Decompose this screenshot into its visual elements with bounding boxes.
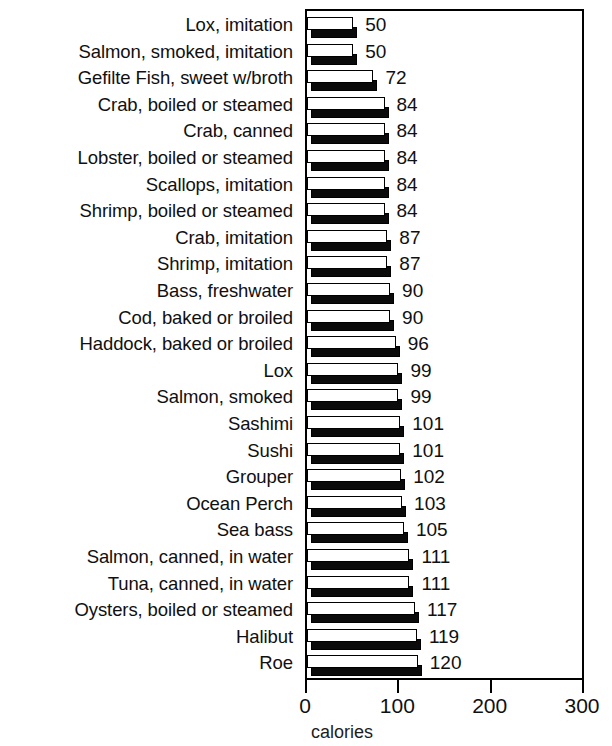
bar: [307, 469, 401, 482]
bar: [307, 97, 385, 110]
bar: [307, 70, 373, 83]
plot-area: 5050728484848484878790909699991011011021…: [305, 9, 584, 680]
bar-group: 111: [307, 576, 586, 603]
bar-group: 84: [307, 123, 586, 150]
category-label: Shrimp, boiled or steamed: [0, 201, 293, 221]
bar-group: 84: [307, 177, 586, 204]
bar: [307, 602, 415, 615]
bar-value-label: 102: [413, 467, 445, 486]
category-label: Salmon, canned, in water: [0, 547, 293, 567]
x-axis-ticks: [305, 680, 584, 694]
bar: [307, 389, 398, 402]
bar-value-label: 99: [410, 387, 431, 406]
bar-group: 50: [307, 17, 586, 44]
bar-value-label: 101: [412, 414, 444, 433]
category-label: Lobster, boiled or steamed: [0, 148, 293, 168]
x-tick-label: 0: [299, 694, 311, 718]
bar-group: 120: [307, 655, 586, 682]
category-label: Sashimi: [0, 414, 293, 434]
category-label: Lox: [0, 361, 293, 381]
bar: [307, 443, 400, 456]
bar-value-label: 50: [365, 15, 386, 34]
bar-value-label: 84: [397, 201, 418, 220]
bar-group: 84: [307, 97, 586, 124]
bar: [307, 522, 404, 535]
bar-value-label: 96: [408, 334, 429, 353]
bar-value-label: 119: [429, 627, 459, 646]
category-label: Sea bass: [0, 520, 293, 540]
category-label: Salmon, smoked, imitation: [0, 42, 293, 62]
bar-value-label: 90: [402, 308, 423, 327]
bar: [307, 177, 385, 190]
category-label: Salmon, smoked: [0, 387, 293, 407]
x-tick: [490, 680, 492, 693]
x-axis-tick-labels: 0100200300: [270, 694, 612, 720]
x-tick: [582, 680, 584, 693]
bar-group: 103: [307, 496, 586, 523]
bar-value-label: 87: [399, 254, 420, 273]
bar: [307, 496, 402, 509]
bar: [307, 655, 418, 668]
bar: [307, 150, 385, 163]
category-label: Crab, imitation: [0, 228, 293, 248]
bar-group: 101: [307, 443, 586, 470]
bar-group: 101: [307, 416, 586, 443]
bar-value-label: 120: [430, 653, 462, 672]
bar: [307, 256, 387, 269]
category-label: Cod, baked or broiled: [0, 308, 293, 328]
bar-value-label: 84: [397, 148, 418, 167]
bar: [307, 17, 353, 30]
category-label: Roe: [0, 653, 293, 673]
bar-value-label: 105: [416, 520, 448, 539]
bar: [307, 123, 385, 136]
category-label: Scallops, imitation: [0, 175, 293, 195]
bar-group: 87: [307, 256, 586, 283]
bar-value-label: 87: [399, 228, 420, 247]
bar: [307, 549, 409, 562]
category-label: Crab, boiled or steamed: [0, 95, 293, 115]
bar: [307, 416, 400, 429]
bar-group: 90: [307, 310, 586, 337]
bar-value-label: 117: [427, 600, 457, 619]
category-label: Sushi: [0, 441, 293, 461]
bar: [307, 576, 409, 589]
bar: [307, 203, 385, 216]
bar-group: 84: [307, 203, 586, 230]
bar-group: 84: [307, 150, 586, 177]
x-axis-title: calories: [0, 722, 612, 743]
bar: [307, 283, 390, 296]
calories-bar-chart: Lox, imitationSalmon, smoked, imitationG…: [0, 0, 612, 746]
bar-value-label: 111: [421, 547, 450, 566]
x-tick: [305, 680, 307, 693]
bar-group: 99: [307, 389, 586, 416]
category-label: Oysters, boiled or steamed: [0, 600, 293, 620]
bar-value-label: 101: [412, 441, 444, 460]
scan-artifact: [330, 1, 600, 4]
bar-value-label: 111: [421, 574, 450, 593]
bar-group: 96: [307, 336, 586, 363]
bar-value-label: 84: [397, 175, 418, 194]
x-tick-label: 200: [472, 694, 507, 718]
category-label: Tuna, canned, in water: [0, 574, 293, 594]
category-label: Gefilte Fish, sweet w/broth: [0, 68, 293, 88]
bar: [307, 363, 398, 376]
category-axis: Lox, imitationSalmon, smoked, imitationG…: [0, 8, 299, 680]
bar-value-label: 72: [385, 68, 406, 87]
category-label: Ocean Perch: [0, 494, 293, 514]
bar-group: 117: [307, 602, 586, 629]
bar-value-label: 84: [397, 121, 418, 140]
bar-value-label: 90: [402, 281, 423, 300]
bar-group: 72: [307, 70, 586, 97]
bar-group: 119: [307, 629, 586, 656]
bar-group: 50: [307, 44, 586, 71]
bar: [307, 310, 390, 323]
category-label: Shrimp, imitation: [0, 254, 293, 274]
bar-group: 102: [307, 469, 586, 496]
category-label: Haddock, baked or broiled: [0, 334, 293, 354]
x-tick-label: 300: [564, 694, 599, 718]
bar-group: 87: [307, 230, 586, 257]
x-tick: [397, 680, 399, 693]
bar: [307, 44, 353, 57]
category-label: Bass, freshwater: [0, 281, 293, 301]
bar: [307, 336, 396, 349]
